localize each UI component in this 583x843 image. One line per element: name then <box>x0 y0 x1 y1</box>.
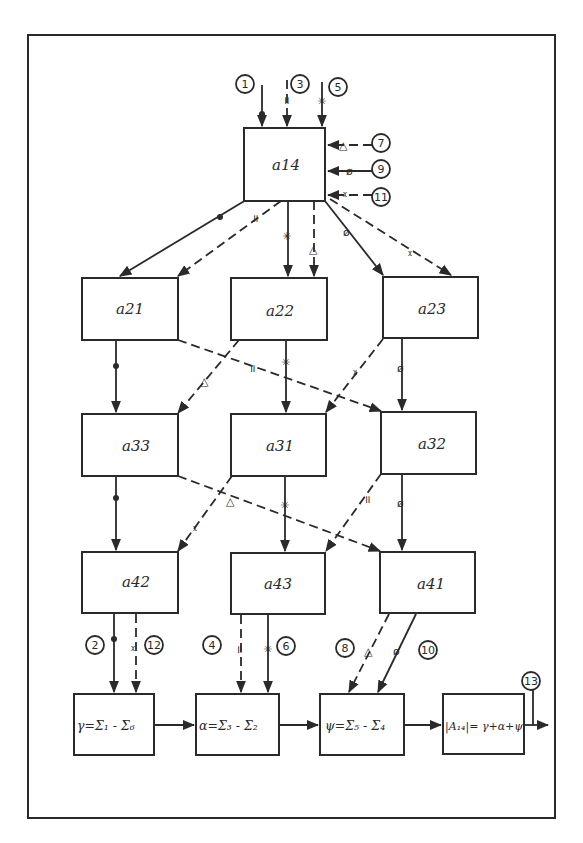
double-bar-marker: ॥ <box>236 643 243 656</box>
label-a32: a32 <box>418 435 446 453</box>
cross-marker: ᵡ <box>193 523 197 536</box>
label-a21: a21 <box>116 300 144 318</box>
slashed-circle-marker: ø <box>397 362 404 375</box>
formula-alpha: α=Σ₃ - Σ₂ <box>199 718 258 733</box>
cross-marker: ᵡ <box>408 248 412 261</box>
cross-marker: ᵡ <box>131 643 135 656</box>
port-6: 6 <box>283 640 290 653</box>
label-a31: a31 <box>266 437 294 455</box>
port-11: 11 <box>374 191 388 204</box>
double-bar-marker: ॥ <box>249 362 256 375</box>
port-2: 2 <box>92 639 99 652</box>
formula-gamma: γ=Σ₁ - Σ₆ <box>77 718 135 733</box>
slashed-circle-marker: ø <box>346 165 353 178</box>
port-1: 1 <box>242 78 249 91</box>
row3-row4-links <box>116 474 402 551</box>
triangle-marker: △ <box>339 139 348 152</box>
double-bar-marker: ॥ <box>364 493 371 506</box>
triangle-marker: △ <box>364 645 373 658</box>
label-a42: a42 <box>122 573 150 591</box>
asterisk-marker: ✳ <box>282 230 291 243</box>
label-a14: a14 <box>272 156 300 174</box>
port-13: 13 <box>524 675 538 688</box>
label-a41: a41 <box>417 575 445 593</box>
slashed-circle-marker: ø <box>397 497 404 510</box>
slashed-circle-marker: ø <box>393 645 400 658</box>
port-12: 12 <box>147 639 161 652</box>
label-a33: a33 <box>122 437 150 455</box>
dot-marker <box>259 111 265 117</box>
double-bar-marker: ॥ <box>252 212 259 225</box>
port-10: 10 <box>421 644 435 657</box>
port-3: 3 <box>297 78 304 91</box>
row2-row3-links <box>116 338 402 413</box>
dot-marker <box>111 636 117 642</box>
block-diagram: a14 a21 a22 a23 a33 a31 a32 a42 a43 a41 … <box>0 0 583 843</box>
triangle-marker: △ <box>200 375 209 388</box>
port-7: 7 <box>378 137 385 150</box>
port-5: 5 <box>335 81 342 94</box>
port-4: 4 <box>209 639 216 652</box>
dot-marker <box>113 363 119 369</box>
label-a23: a23 <box>418 300 446 318</box>
label-a22: a22 <box>266 302 294 320</box>
formula-result: |A₁₄|= γ+α+ψ <box>445 720 523 734</box>
asterisk-marker: ✳ <box>280 499 289 512</box>
double-bar-marker: ॥ <box>283 94 290 107</box>
asterisk-marker: ✳ <box>281 356 290 369</box>
formula-psi: ψ=Σ₅ - Σ₄ <box>325 718 385 733</box>
asterisk-marker: ✳ <box>263 643 272 656</box>
slashed-circle-marker: ø <box>343 226 350 239</box>
triangle-marker: △ <box>309 243 318 256</box>
dot-marker <box>217 214 223 220</box>
port-8: 8 <box>342 642 349 655</box>
cross-marker: ᵡ <box>353 367 357 380</box>
triangle-marker: △ <box>226 495 235 508</box>
port-9: 9 <box>378 163 385 176</box>
dot-marker <box>113 495 119 501</box>
asterisk-marker: ✳ <box>317 95 326 108</box>
cross-marker: ᵡ <box>343 189 347 202</box>
label-a43: a43 <box>264 575 292 593</box>
